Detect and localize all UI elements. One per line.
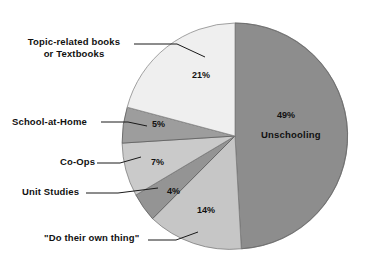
callout-do-their-own-thing[interactable]: "Do their own thing": [44, 232, 139, 244]
callout-topic-related-books-line1: Topic-related books: [18, 36, 130, 48]
slice-value-label-topic-related-books: 21%: [192, 70, 210, 80]
pie-chart-figure: Topic-related books or Textbooks School-…: [0, 0, 369, 268]
slice-value-label-co-ops: 7%: [151, 157, 164, 167]
slice-value-label-do-their-own-thing: 14%: [197, 205, 215, 215]
callout-co-ops[interactable]: Co-Ops: [60, 156, 95, 168]
callout-topic-related-books-line2: or Textbooks: [18, 48, 130, 60]
slice-value-label-unit-studies: 4%: [167, 186, 180, 196]
slice-value-label-unschooling: 49%: [277, 110, 295, 120]
slice-value-label-school-at-home: 5%: [152, 119, 165, 129]
callout-topic-related-books[interactable]: Topic-related books or Textbooks: [18, 36, 130, 60]
callout-unit-studies[interactable]: Unit Studies: [22, 186, 79, 198]
slice-name-label-unschooling: Unschooling: [261, 129, 321, 140]
callout-school-at-home[interactable]: School-at-Home: [12, 116, 87, 128]
